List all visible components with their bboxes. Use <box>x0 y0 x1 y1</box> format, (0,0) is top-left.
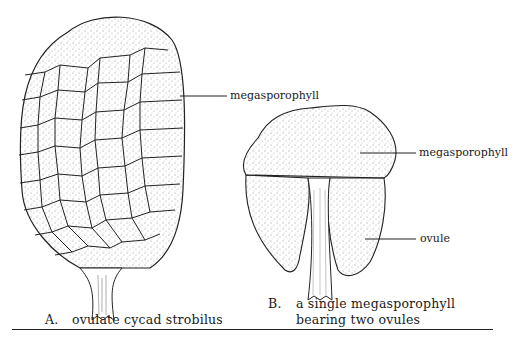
caption-a-text: ovulate cycad strobilus <box>72 312 223 327</box>
label-megasporophyll-b: megasporophyll <box>419 146 508 159</box>
caption-a-letter: A. <box>45 312 58 327</box>
caption-b-line2: bearing two ovules <box>296 312 420 327</box>
caption-rule <box>12 329 493 330</box>
caption-b-line1: a single megasporophyll <box>296 296 455 311</box>
caption-b-letter: B. <box>268 296 282 311</box>
strobilus-drawing <box>19 17 185 320</box>
label-ovule: ovule <box>420 232 450 245</box>
megasporophyll-drawing <box>243 106 395 301</box>
label-megasporophyll-a: megasporophyll <box>230 89 319 102</box>
